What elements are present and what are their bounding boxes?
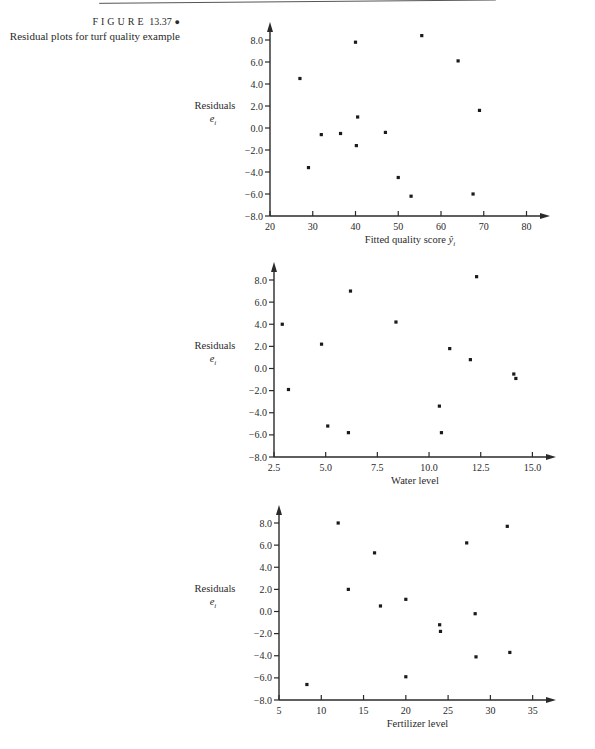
data-point [420, 34, 423, 37]
x-tick-label: 7.5 [371, 462, 384, 473]
data-point [384, 131, 387, 134]
scatter-plot-3: 8.06.04.02.00.0−2.0−4.0−6.0−8.0510152025… [195, 505, 556, 729]
data-point [354, 41, 357, 44]
x-tick-label: 2.5 [268, 462, 281, 473]
y-tick-label: 6.0 [260, 540, 273, 551]
y-tick-label: −2.0 [245, 145, 263, 156]
y-tick-label: 4.0 [260, 562, 273, 573]
x-tick-label: 15.0 [524, 462, 542, 473]
x-axis-arrow-icon [546, 454, 556, 460]
data-point [326, 424, 329, 427]
data-point [298, 77, 301, 80]
residual-plots: 8.06.04.02.00.0−2.0−4.0−6.0−8.0203040506… [0, 0, 595, 749]
x-tick-label: 5.0 [319, 462, 332, 473]
data-point [349, 289, 352, 292]
y-tick-label: 6.0 [255, 297, 268, 308]
y-tick-label: 2.0 [260, 584, 273, 595]
x-tick-label: 25 [443, 705, 453, 716]
data-point [475, 275, 478, 278]
y-tick-label: −8.0 [245, 211, 263, 222]
data-point [379, 604, 382, 607]
x-axis-label: Fertilizer level [387, 718, 449, 729]
data-point [287, 388, 290, 391]
data-point [471, 192, 474, 195]
y-axis-arrow-icon [271, 262, 277, 272]
y-axis-symbol: ei [210, 113, 217, 127]
y-tick-label: 6.0 [251, 57, 264, 68]
data-point [439, 630, 442, 633]
y-tick-label: −6.0 [249, 429, 267, 440]
data-point [373, 551, 376, 554]
data-point [508, 651, 511, 654]
data-point [281, 323, 284, 326]
data-point [307, 166, 310, 169]
x-tick-label: 10.0 [420, 462, 438, 473]
y-tick-label: 8.0 [260, 518, 273, 529]
x-tick-label: 70 [479, 221, 489, 232]
y-axis-symbol: ei [210, 596, 217, 610]
data-point [356, 115, 359, 118]
data-point [474, 655, 477, 658]
x-tick-label: 15 [359, 705, 369, 716]
data-point [474, 612, 477, 615]
y-axis-arrow-icon [267, 22, 273, 32]
x-axis-arrow-icon [546, 697, 556, 703]
data-point [320, 343, 323, 346]
y-tick-label: −4.0 [249, 407, 267, 418]
data-point [404, 675, 407, 678]
data-point [465, 541, 468, 544]
data-point [347, 431, 350, 434]
data-point [506, 525, 509, 528]
y-tick-label: −6.0 [245, 189, 263, 200]
x-tick-label: 20 [265, 221, 275, 232]
data-point [320, 133, 323, 136]
y-tick-label: 2.0 [255, 341, 268, 352]
x-tick-label: 5 [277, 705, 282, 716]
y-tick-label: 0.0 [251, 123, 264, 134]
data-point [448, 347, 451, 350]
x-tick-label: 10 [316, 705, 326, 716]
data-point [514, 377, 517, 380]
y-axis-symbol: ei [210, 353, 217, 367]
y-tick-label: −2.0 [254, 628, 272, 639]
data-point [397, 176, 400, 179]
y-tick-label: −6.0 [254, 672, 272, 683]
x-tick-label: 80 [522, 221, 532, 232]
scatter-plot-1: 8.06.04.02.00.0−2.0−4.0−6.0−8.0203040506… [195, 22, 550, 248]
y-axis-label: Residuals [195, 100, 236, 111]
x-tick-label: 12.5 [472, 462, 490, 473]
y-tick-label: 4.0 [251, 79, 264, 90]
y-tick-label: 0.0 [260, 606, 273, 617]
y-tick-label: −4.0 [254, 650, 272, 661]
y-tick-label: −8.0 [254, 695, 272, 706]
y-axis-label: Residuals [195, 340, 236, 351]
scatter-plot-2: 8.06.04.02.00.0−2.0−4.0−6.0−8.02.55.07.5… [195, 262, 556, 486]
y-tick-label: 4.0 [255, 319, 268, 330]
x-axis-arrow-icon [540, 213, 550, 219]
y-tick-label: −4.0 [245, 167, 263, 178]
data-point [339, 132, 342, 135]
data-point [355, 144, 358, 147]
data-point [469, 358, 472, 361]
data-point [438, 405, 441, 408]
y-tick-label: −8.0 [249, 452, 267, 463]
y-axis-arrow-icon [276, 505, 282, 515]
y-tick-label: 8.0 [251, 35, 264, 46]
y-tick-label: 0.0 [255, 363, 268, 374]
y-tick-label: 2.0 [251, 101, 264, 112]
data-point [305, 683, 308, 686]
data-point [409, 195, 412, 198]
data-point [512, 372, 515, 375]
y-tick-label: 8.0 [255, 275, 268, 286]
x-tick-label: 20 [401, 705, 411, 716]
data-point [438, 623, 441, 626]
data-point [337, 521, 340, 524]
data-point [404, 598, 407, 601]
x-tick-label: 35 [528, 705, 538, 716]
x-tick-label: 30 [485, 705, 495, 716]
data-point [394, 320, 397, 323]
x-axis-label: Fitted quality score ŷi [365, 234, 455, 248]
x-tick-label: 50 [393, 221, 403, 232]
y-axis-label: Residuals [195, 583, 236, 594]
data-point [478, 109, 481, 112]
